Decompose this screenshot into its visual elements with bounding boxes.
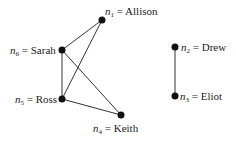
label-n1: n1 = Allison [105,5,158,19]
node-n6-sarah [59,47,66,54]
label-n4: n4 = Keith [93,122,139,136]
node-n1-allison [99,17,106,24]
social-network-graph: n1 = Allison n2 = Drew n3 = Eliot n4 = K… [0,0,236,141]
label-n3: n3 = Eliot [180,90,222,104]
edge-n5-n4 [62,99,121,115]
label-n5: n5 = Ross [15,93,57,107]
edge-n1-n6 [62,20,102,50]
node-n5-ross [59,96,66,103]
label-n2: n2 = Drew [181,41,226,55]
node-n3-eliot [172,93,179,100]
node-n4-keith [118,112,125,119]
label-n6: n6 = Sarah [10,44,56,58]
node-n2-drew [172,44,179,51]
